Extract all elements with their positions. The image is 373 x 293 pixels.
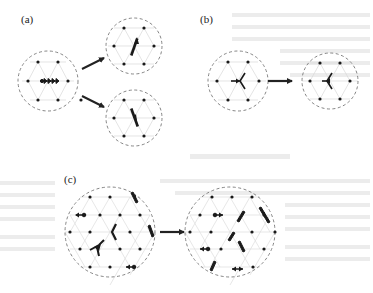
arrow-a-down-icon (82, 96, 104, 107)
circle-a-result-bottom (106, 90, 162, 146)
circle-a-result-top (106, 18, 162, 74)
circle-c-initial (65, 187, 155, 285)
panel-b (208, 51, 358, 111)
defect-cluster-icon (40, 79, 59, 84)
circle-a-initial (18, 51, 78, 111)
circle-c-result (185, 187, 277, 285)
defect-icons-c-initial (75, 192, 154, 270)
defect-icons-c-result (200, 207, 270, 272)
bleed-through-text (0, 13, 370, 261)
arrow-a-up-icon (82, 58, 104, 69)
stray-dot (79, 98, 82, 101)
panel-a-label: (a) (21, 13, 33, 25)
panel-a (18, 18, 162, 146)
panel-c-label: (c) (64, 173, 76, 185)
panel-b-label: (b) (200, 13, 213, 25)
defect-transition-figure (0, 0, 373, 293)
circle-b-initial (208, 51, 268, 111)
panel-c (65, 187, 277, 285)
